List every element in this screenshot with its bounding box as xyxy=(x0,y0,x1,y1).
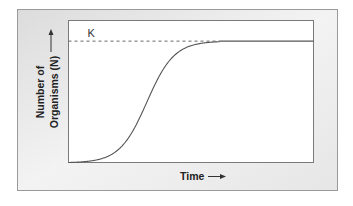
y-axis-label-line2: Organisms (N) xyxy=(48,56,60,128)
carrying-capacity-label: K xyxy=(88,27,96,39)
logistic-growth-figure: K Number of Organisms (N) Time xyxy=(0,0,353,206)
x-axis-label: Time xyxy=(180,170,204,182)
y-axis-label-line1: Number of xyxy=(34,65,46,118)
plot-area xyxy=(69,21,314,163)
